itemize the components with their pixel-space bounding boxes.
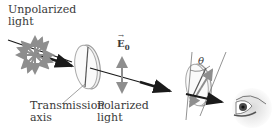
transmission-label-line2: axis (30, 112, 104, 124)
e-field-vector-arrow: → (118, 30, 124, 42)
polarized-label-line2: light (97, 112, 149, 124)
e-field-subscript: 0 (125, 43, 130, 52)
unpolarized-starburst-icon (17, 37, 53, 73)
polarized-light-label: Polarized light (97, 100, 149, 124)
first-polarizer (62, 44, 103, 104)
unpolarized-light-label: Unpolarized light (8, 4, 76, 28)
eye-icon (232, 88, 272, 128)
polarized-beam (90, 68, 170, 91)
unpolarized-label-line2: light (8, 16, 76, 28)
transmission-axis-label: Transmission axis (30, 100, 104, 124)
polarization-diagram: Unpolarized light E0 → Transmission axis… (0, 0, 274, 139)
theta-label: θ (198, 55, 204, 67)
